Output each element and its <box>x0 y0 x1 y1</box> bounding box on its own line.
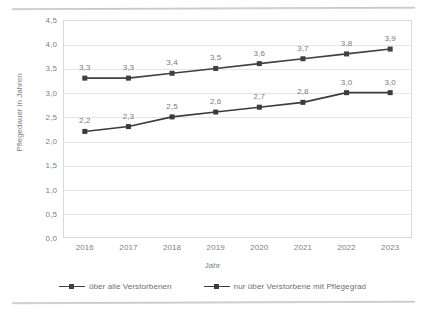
x-axis-title: Jahr <box>0 261 425 270</box>
y-axis-tick: 4,5 <box>31 16 57 25</box>
series-marker <box>170 71 175 76</box>
series-marker <box>126 76 131 81</box>
series-marker <box>300 56 305 61</box>
x-axis-tick: 2021 <box>281 243 325 252</box>
x-axis-tick: 2020 <box>237 243 281 252</box>
series-marker <box>257 105 262 110</box>
series-marker <box>257 61 262 66</box>
x-axis-tick: 2023 <box>368 243 412 252</box>
y-axis-title: Pflegedauer in Jahren <box>15 58 24 168</box>
y-axis-tick: 0,0 <box>31 234 57 243</box>
x-axis-tick: 2019 <box>194 243 238 252</box>
series-marker <box>170 114 175 119</box>
series-marker <box>300 100 305 105</box>
series-marker <box>388 90 393 95</box>
y-axis-tick: 3,5 <box>31 64 57 73</box>
legend-marker-icon <box>59 282 85 291</box>
series-lines-layer <box>63 20 412 238</box>
legend-entry[interactable]: über alle Verstorbenen <box>59 282 172 291</box>
y-axis-tick: 2,0 <box>31 137 57 146</box>
series-marker <box>213 66 218 71</box>
x-axis-tick: 2017 <box>106 243 150 252</box>
y-axis-tick: 3,0 <box>31 89 57 98</box>
line-chart-figure: 0,00,51,01,52,02,53,03,54,04,5 201620172… <box>0 0 425 314</box>
y-axis-tick: 2,5 <box>31 113 57 122</box>
x-axis-tick: 2016 <box>63 243 107 252</box>
legend-label: nur über Verstorbene mit Pflegegrad <box>234 282 366 291</box>
y-axis-tick: 1,0 <box>31 186 57 195</box>
x-axis-tick: 2018 <box>150 243 194 252</box>
series-marker <box>82 129 87 134</box>
series-marker <box>126 124 131 129</box>
legend-label: über alle Verstorbenen <box>89 282 172 291</box>
y-axis-tick: 4,0 <box>31 40 57 49</box>
legend-marker-icon <box>204 282 230 291</box>
y-axis-tick: 1,5 <box>31 161 57 170</box>
series-marker <box>213 110 218 115</box>
legend-entry[interactable]: nur über Verstorbene mit Pflegegrad <box>204 282 366 291</box>
series-marker <box>82 76 87 81</box>
series-marker <box>344 90 349 95</box>
y-axis-tick: 0,5 <box>31 210 57 219</box>
series-marker <box>388 47 393 52</box>
chart-legend: über alle Verstorbenennur über Verstorbe… <box>0 282 425 291</box>
series-marker <box>344 51 349 56</box>
x-axis-tick: 2022 <box>325 243 369 252</box>
